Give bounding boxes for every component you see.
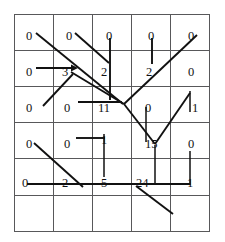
annotation-strokes — [27, 33, 197, 214]
grid-horizontal-rules — [15, 51, 210, 196]
annotation-stroke-l — [155, 93, 190, 144]
cell-r1c4: 0 — [148, 30, 154, 43]
cell-r4c3: 1 — [101, 134, 107, 147]
cell-r4c1: 0 — [26, 138, 32, 151]
cell-r2c2: 3 — [62, 66, 68, 79]
cell-r5c4: 24 — [136, 177, 149, 190]
cell-r2c5: 0 — [188, 66, 194, 79]
cell-r3c5: 1 — [192, 102, 198, 115]
annotation-stroke-t — [136, 186, 173, 214]
annotation-stroke-h — [71, 72, 124, 104]
cell-r4c5: 0 — [188, 138, 194, 151]
cell-r1c5: 0 — [188, 30, 194, 43]
cell-r3c3: 11 — [98, 102, 110, 115]
cell-r3c2: 0 — [64, 102, 70, 115]
annotation-stroke-e — [124, 35, 197, 104]
cell-r5c5: 1 — [187, 177, 193, 190]
cell-r3c4: 0 — [145, 102, 151, 115]
cell-r1c3: 0 — [106, 30, 112, 43]
cell-r2c4: 2 — [146, 66, 152, 79]
cell-r1c2: 0 — [66, 30, 72, 43]
annotated-grid-figure: 0 0 0 0 0 0 3 2 2 0 0 0 11 0 1 0 0 1 15 … — [0, 0, 225, 242]
cell-r2c3: 2 — [101, 66, 107, 79]
cell-r5c1: 0 — [22, 177, 28, 190]
cell-r5c3: 5 — [101, 177, 107, 190]
cell-r2c1: 0 — [26, 66, 32, 79]
cell-r4c4: 15 — [145, 138, 158, 151]
cell-r3c1: 0 — [26, 102, 32, 115]
cell-r4c2: 0 — [64, 138, 70, 151]
annotation-stroke-r — [34, 143, 83, 187]
cell-r1c1: 0 — [26, 30, 32, 43]
cell-r5c2: 2 — [62, 177, 68, 190]
